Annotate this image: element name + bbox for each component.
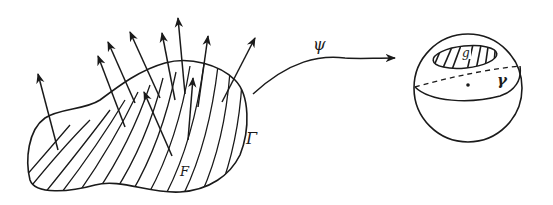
mapping-arrow xyxy=(253,57,395,94)
surface-f xyxy=(5,61,252,205)
sphere-center-point xyxy=(466,83,470,87)
normal-arrow xyxy=(198,36,208,107)
normal-vectors xyxy=(38,18,255,156)
normal-arrow xyxy=(222,38,255,102)
label-region-g: g xyxy=(461,47,471,59)
normal-arrow xyxy=(130,32,160,98)
label-curve-gamma: γ xyxy=(497,73,507,88)
normal-arrow xyxy=(98,56,125,127)
label-region-f: F xyxy=(180,165,189,178)
normal-arrow xyxy=(38,74,58,150)
diagram-canvas xyxy=(0,0,553,205)
label-gamma-boundary: Γ xyxy=(246,131,257,147)
normal-arrow xyxy=(178,18,185,94)
label-psi: ψ xyxy=(313,37,326,53)
normal-arrow xyxy=(162,33,175,100)
